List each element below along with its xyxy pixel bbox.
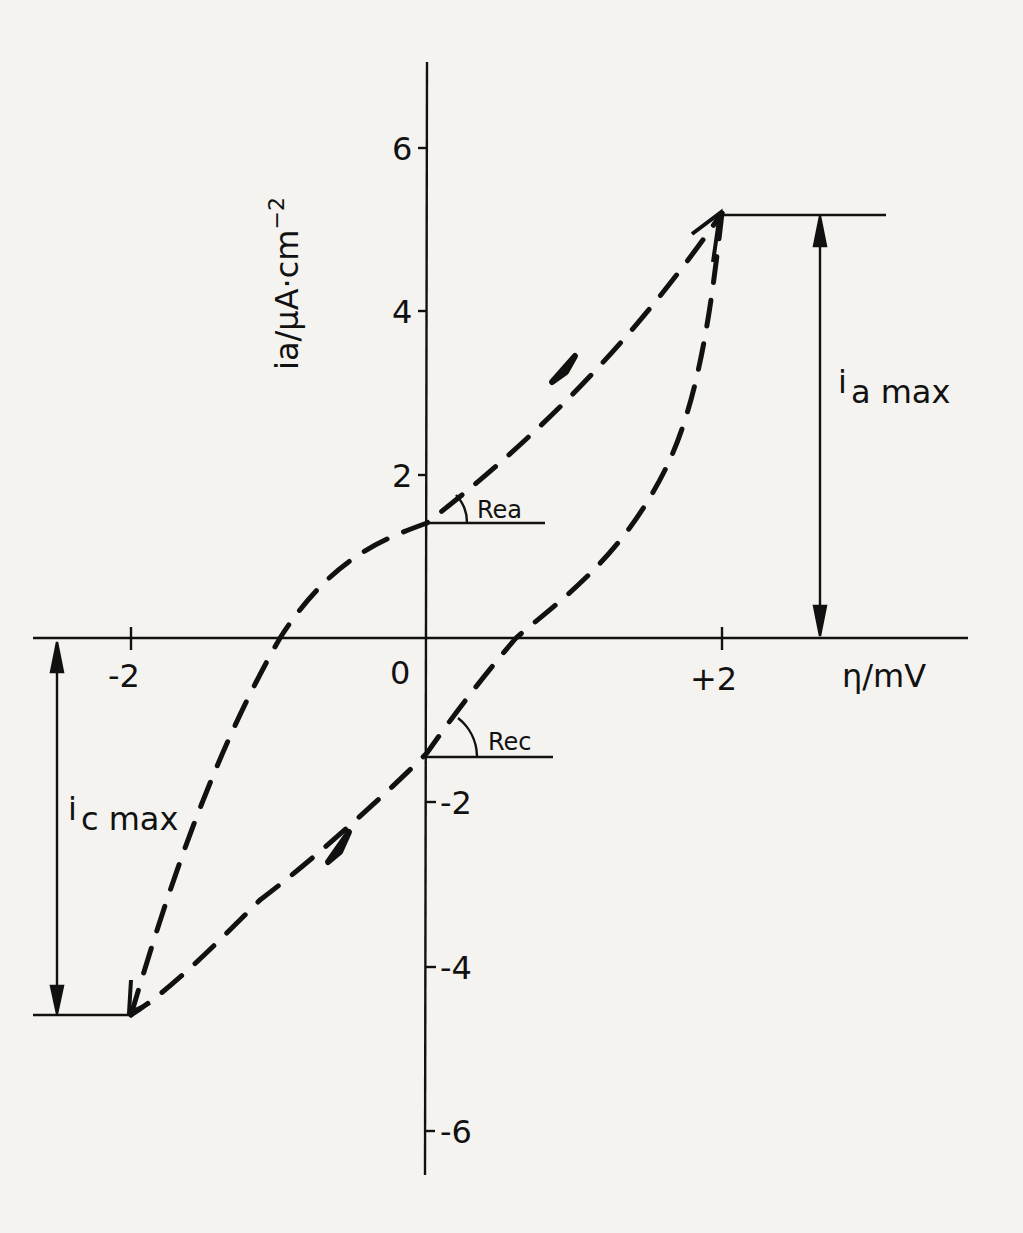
y-tick-label: -2 xyxy=(440,784,472,822)
y-axis xyxy=(425,62,427,1175)
hysteresis-chart: -2 0 +2 6 4 2 -2 -4 -6 η/mV ia/µA·cm−2 xyxy=(0,0,1023,1233)
ia-max-indicator xyxy=(722,215,886,636)
rea-label: Rea xyxy=(477,496,522,524)
svg-text:ia/µA·cm−2: ia/µA·cm−2 xyxy=(264,197,306,370)
x-axis-label: η/mV xyxy=(842,657,926,695)
y-tick-label: -4 xyxy=(440,949,472,987)
x-tick-label: 0 xyxy=(390,654,410,692)
y-tick-label: -6 xyxy=(440,1113,472,1151)
ia-max-label: ia max xyxy=(838,363,950,411)
y-tick-label: 2 xyxy=(392,457,412,495)
y-tick-labels: 6 4 2 -2 -4 -6 xyxy=(392,130,472,1151)
x-tick-label: +2 xyxy=(690,660,737,698)
ic-max-label: ic max xyxy=(68,790,178,838)
svg-text:η/mV: η/mV xyxy=(842,657,926,695)
axes xyxy=(33,62,968,1175)
y-axis-label: ia/µA·cm−2 xyxy=(264,197,306,370)
arrow-up-icon xyxy=(552,356,575,382)
rec-label: Rec xyxy=(488,728,532,756)
y-tick-label: 4 xyxy=(392,293,412,331)
y-tick-label: 6 xyxy=(392,130,412,168)
x-tick-labels: -2 0 +2 xyxy=(108,654,737,698)
x-tick-label: -2 xyxy=(108,657,140,695)
